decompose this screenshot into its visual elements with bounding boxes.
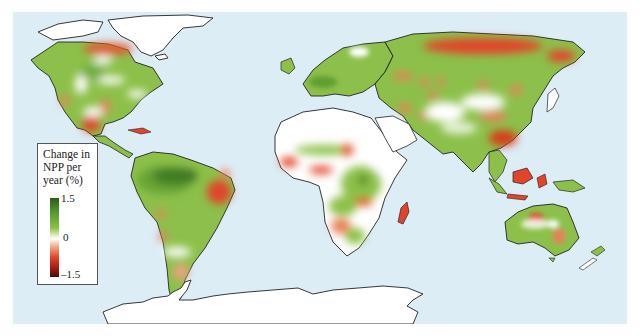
north-america	[31, 42, 163, 158]
south-america	[131, 152, 235, 304]
legend-tick-zero: 0	[63, 231, 69, 243]
legend-tick-min: –1.5	[61, 268, 80, 280]
maritime-southeast-asia	[489, 168, 585, 200]
antarctica	[103, 280, 423, 324]
africa	[275, 108, 417, 256]
australia	[505, 204, 605, 270]
map-canvas	[13, 12, 627, 324]
legend-tick-max: 1.5	[61, 192, 75, 204]
color-legend: Change in NPP per year (%) 1.5 0 –1.5	[37, 143, 98, 285]
legend-title: Change in NPP per year (%)	[43, 148, 99, 187]
legend-colorbar	[50, 198, 59, 277]
world-map	[13, 12, 627, 324]
